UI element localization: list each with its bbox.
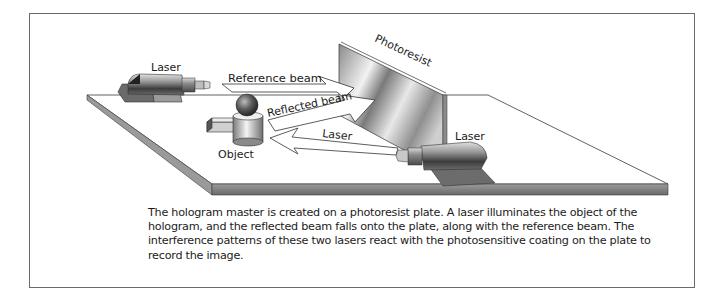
laser-right-label: Laser <box>455 130 485 143</box>
figure-caption: The hologram master is created on a phot… <box>148 206 688 263</box>
table-front-edge <box>212 184 668 195</box>
object-label: Object <box>218 148 255 161</box>
laser-left-label: Laser <box>151 61 181 74</box>
reference-beam-label: Reference beam <box>228 72 322 85</box>
sphere <box>236 94 258 116</box>
photoresist-label: Photoresist <box>373 32 435 70</box>
